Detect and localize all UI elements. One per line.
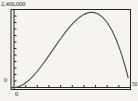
graph-screen: 2,400,000 0 0 50 bbox=[0, 0, 138, 101]
plot-area bbox=[0, 0, 138, 101]
plot-frame bbox=[11, 10, 131, 90]
curve-path bbox=[14, 12, 128, 87]
